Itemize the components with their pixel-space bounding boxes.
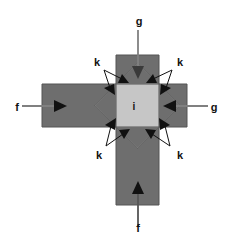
label-k-bottom-right: k — [177, 149, 184, 161]
label-center-i: i — [133, 101, 136, 112]
label-right-g: g — [211, 101, 218, 113]
label-bottom-f: f — [136, 222, 140, 234]
label-k-bottom-left: k — [96, 149, 103, 161]
label-top-g: g — [136, 15, 143, 27]
label-k-top-right: k — [177, 56, 184, 68]
diagram-canvas: i g g f f k k k k — [0, 0, 236, 240]
center-element — [116, 84, 159, 127]
label-k-top-left: k — [94, 56, 101, 68]
label-left-f: f — [15, 101, 19, 113]
cross-body — [42, 55, 187, 205]
force-diagram-figure: i g g f f k k k k — [0, 0, 236, 240]
